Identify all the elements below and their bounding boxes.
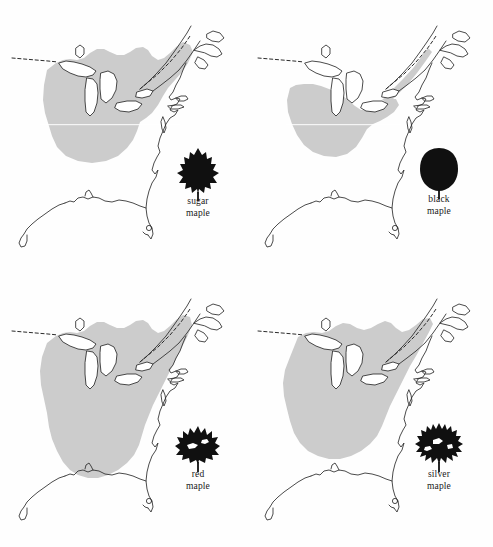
map-panel-sugar-maple: sugar maple	[0, 0, 246, 273]
caption-line-1: silver	[412, 469, 466, 481]
caption-red-maple: red maple	[174, 469, 222, 492]
maple-range-figure: sugar maple	[0, 0, 493, 547]
caption-line-2: maple	[174, 208, 222, 220]
caption-line-1: red	[174, 469, 222, 481]
caption-silver-maple: silver maple	[412, 469, 466, 492]
sugar-maple-leaf-icon	[174, 146, 222, 202]
range-map-sugar-maple	[0, 0, 246, 273]
panel-grid: sugar maple	[0, 0, 493, 547]
scan-line-artifact	[286, 124, 401, 125]
caption-line-2: maple	[412, 481, 466, 493]
black-maple-leaf-icon	[416, 146, 462, 200]
red-maple-leaf-icon	[174, 423, 222, 473]
national-border-dashed	[258, 58, 304, 62]
map-panel-red-maple: red maple	[0, 273, 246, 547]
map-panel-silver-maple: silver maple	[246, 273, 493, 547]
silver-maple-leaf-icon	[414, 421, 464, 473]
caption-sugar-maple: sugar maple	[174, 196, 222, 219]
caption-black-maple: black maple	[416, 194, 462, 217]
scan-line-artifact	[40, 124, 180, 125]
caption-line-2: maple	[416, 206, 462, 218]
national-border-dashed	[12, 58, 58, 62]
species-range-shading	[283, 318, 433, 459]
range-map-red-maple	[0, 273, 246, 547]
caption-line-1: sugar	[174, 196, 222, 208]
caption-line-2: maple	[174, 481, 222, 493]
caption-line-1: black	[416, 194, 462, 206]
national-border-dashed-east	[386, 36, 436, 89]
map-panel-black-maple: black maple	[246, 0, 493, 273]
national-border-dashed	[258, 331, 304, 335]
range-map-silver-maple	[246, 273, 493, 547]
national-border-dashed	[12, 331, 58, 335]
range-map-black-maple	[246, 0, 493, 273]
